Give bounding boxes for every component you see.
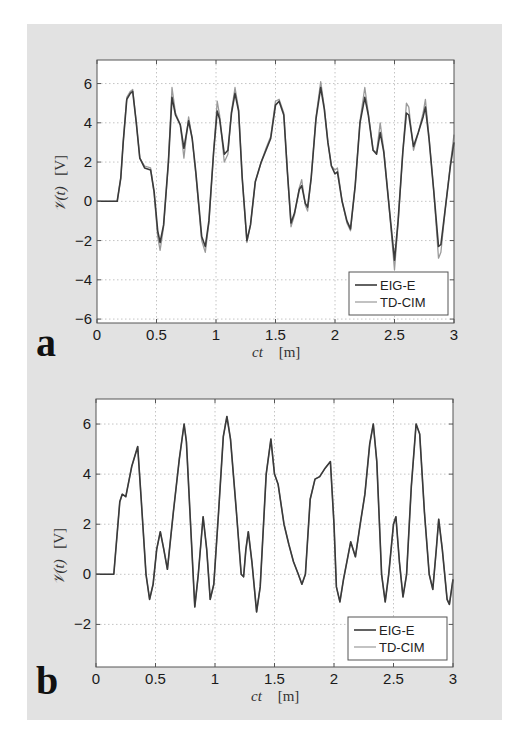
chart-a: 00.511.522.53−6−4−20246ct[m]𝒱(t)[V]aEIG-… xyxy=(36,60,458,365)
x-axis-label: ct xyxy=(251,688,263,704)
panel-letter: a xyxy=(36,320,56,365)
y-tick-label: −4 xyxy=(75,271,92,288)
legend-label-td-cim: TD-CIM xyxy=(379,640,425,655)
y-tick-label: 2 xyxy=(84,153,92,170)
x-tick-label: 1.5 xyxy=(265,326,286,343)
x-tick-label: 1 xyxy=(212,326,220,343)
y-tick-label: −2 xyxy=(75,232,92,249)
x-axis-unit: [m] xyxy=(278,688,300,704)
x-tick-label: 0.5 xyxy=(146,326,167,343)
y-tick-label: −6 xyxy=(75,310,92,327)
y-tick-label: 6 xyxy=(84,75,92,92)
figure-canvas: 00.511.522.53−6−4−20246ct[m]𝒱(t)[V]aEIG-… xyxy=(0,0,528,751)
x-tick-label: 2.5 xyxy=(383,670,404,687)
x-tick-label: 0 xyxy=(92,670,100,687)
y-tick-label: −2 xyxy=(74,615,91,632)
y-tick-label: 4 xyxy=(84,114,92,131)
legend-label-eig-e: EIG-E xyxy=(380,278,416,293)
x-tick-label: 0 xyxy=(93,326,101,343)
y-axis-unit: [V] xyxy=(52,155,68,176)
y-axis-unit: [V] xyxy=(51,528,67,549)
x-tick-label: 2 xyxy=(331,326,339,343)
x-tick-label: 2 xyxy=(330,670,338,687)
legend-label-td-cim: TD-CIM xyxy=(380,295,426,310)
x-tick-label: 0.5 xyxy=(145,670,166,687)
x-axis-unit: [m] xyxy=(279,344,301,360)
y-tick-label: 0 xyxy=(83,565,91,582)
y-axis-label: 𝒱(t) xyxy=(52,186,69,212)
panel-letter: b xyxy=(36,658,58,703)
x-tick-label: 1 xyxy=(211,670,219,687)
x-tick-label: 1.5 xyxy=(264,670,285,687)
x-axis-label: ct xyxy=(252,344,264,360)
y-tick-label: 0 xyxy=(84,192,92,209)
x-tick-label: 2.5 xyxy=(384,326,405,343)
y-axis-label: 𝒱(t) xyxy=(51,559,68,585)
legend-label-eig-e: EIG-E xyxy=(379,623,415,638)
y-tick-label: 2 xyxy=(83,515,91,532)
legend: EIG-ETD-CIM xyxy=(349,272,448,315)
chart-b: 00.511.522.53−20246ct[m]𝒱(t)[V]bEIG-ETD-… xyxy=(36,399,457,704)
y-tick-label: 4 xyxy=(83,465,91,482)
y-tick-label: 6 xyxy=(83,415,91,432)
x-tick-label: 3 xyxy=(449,670,457,687)
x-tick-label: 3 xyxy=(450,326,458,343)
legend: EIG-ETD-CIM xyxy=(348,617,447,660)
